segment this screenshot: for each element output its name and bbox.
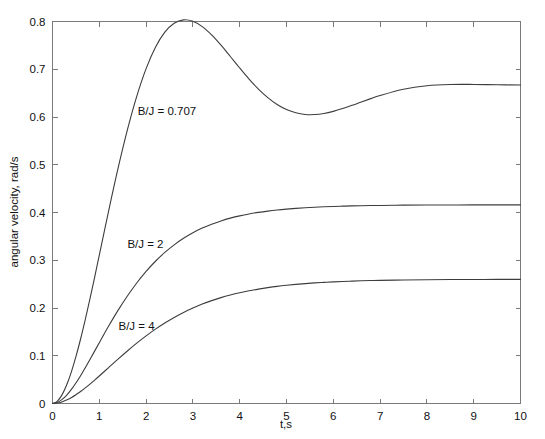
figure-container: 00.10.20.30.40.50.60.70.8 012345678910 B…	[0, 0, 545, 439]
y-tick-label: 0.8	[30, 16, 46, 28]
y-tick-label: 0.3	[30, 254, 46, 266]
x-axis-title: t,s	[280, 418, 292, 430]
y-tick-label: 0.4	[30, 207, 47, 219]
x-tick-label: 2	[143, 410, 149, 422]
step-response-chart: 00.10.20.30.40.50.60.70.8 012345678910 B…	[0, 0, 545, 439]
curve-label-3: B/J = 4	[118, 320, 155, 332]
x-tick-label: 10	[514, 410, 527, 422]
y-axis-tick-labels: 00.10.20.30.40.50.60.70.8	[30, 16, 47, 410]
x-tick-label: 1	[96, 410, 102, 422]
y-tick-label: 0.7	[30, 63, 46, 75]
y-axis-title: angular velocity, rad/s	[8, 156, 20, 267]
y-tick-label: 0.2	[30, 302, 46, 314]
x-tick-label: 7	[377, 410, 383, 422]
x-tick-label: 0	[49, 410, 55, 422]
x-tick-label: 8	[424, 410, 430, 422]
y-tick-label: 0.1	[30, 350, 46, 362]
x-tick-label: 9	[470, 410, 476, 422]
x-tick-label: 3	[190, 410, 196, 422]
y-tick-label: 0.6	[30, 111, 46, 123]
x-tick-label: 4	[236, 410, 243, 422]
curve-label-2: B/J = 2	[127, 238, 163, 250]
curve-label-1: B/J = 0.707	[138, 105, 197, 117]
y-tick-label: 0	[39, 398, 45, 410]
x-tick-label: 6	[330, 410, 336, 422]
y-tick-label: 0.5	[30, 159, 46, 171]
